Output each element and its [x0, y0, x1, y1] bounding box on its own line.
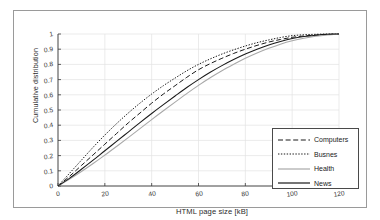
legend-label: Computers: [314, 136, 348, 143]
legend-item-busnes[interactable]: Busnes: [273, 147, 360, 162]
legend-line-sample: [277, 164, 311, 174]
legend-item-computers[interactable]: Computers: [273, 132, 360, 147]
legend-item-news[interactable]: News: [273, 176, 360, 191]
legend-label: Health: [314, 165, 334, 172]
legend-line-sample: [277, 178, 311, 188]
legend-line-sample: [277, 135, 311, 145]
legend-label: Busnes: [314, 151, 337, 158]
figure: Cumulative distribution HTML page size […: [0, 0, 380, 220]
legend-item-health[interactable]: Health: [273, 161, 360, 176]
legend-label: News: [314, 180, 332, 187]
figure-frame: Cumulative distribution HTML page size […: [13, 10, 367, 208]
legend-line-sample: [277, 149, 311, 159]
x-axis-label: HTML page size [kB]: [71, 207, 353, 216]
legend: ComputersBusnesHealthNews: [272, 128, 359, 189]
